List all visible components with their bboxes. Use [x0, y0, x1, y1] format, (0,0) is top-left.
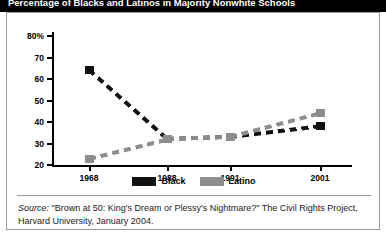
chart-figure: Percentage of Blacks and Latinos in Majo…: [0, 0, 386, 235]
y-axis-tick: [47, 35, 52, 37]
y-axis-tick-label: 30: [4, 139, 44, 149]
legend-swatch-icon: [132, 177, 156, 186]
data-point-latino: [85, 155, 94, 163]
legend-entry: Black: [132, 176, 185, 186]
chart-legend: BlackLatino: [7, 176, 381, 186]
y-axis-line: [52, 32, 54, 167]
data-point-black: [85, 66, 94, 74]
y-axis-tick-label: 80%: [4, 31, 44, 41]
y-axis-tick-label: 20: [4, 160, 44, 170]
chart-title-bar: Percentage of Blacks and Latinos in Majo…: [0, 0, 386, 12]
page-title: Percentage of Blacks and Latinos in Majo…: [8, 0, 295, 8]
legend-entry: Latino: [200, 176, 256, 186]
y-axis-tick-label: 60: [4, 74, 44, 84]
data-point-latino: [163, 135, 172, 143]
legend-label: Black: [161, 176, 185, 186]
chart-panel: 20304050607080% 1968198819912001 BlackLa…: [6, 12, 380, 230]
note-divider: [17, 195, 371, 196]
legend-swatch-icon: [200, 177, 224, 186]
y-axis-tick: [47, 164, 52, 166]
x-axis-tick: [89, 167, 91, 171]
data-point-black: [316, 122, 325, 130]
source-note: Source: "Brown at 50: King's Dream or Pl…: [18, 202, 370, 227]
data-point-latino: [226, 133, 235, 141]
x-axis-tick: [230, 167, 232, 171]
series-line-latino: [167, 135, 230, 141]
y-axis-tick: [47, 143, 52, 145]
y-axis-tick: [47, 57, 52, 59]
y-axis-tick: [47, 78, 52, 80]
source-text: "Brown at 50: King's Dream or Plessy's N…: [18, 203, 358, 226]
y-axis-tick-label: 40: [4, 117, 44, 127]
legend-label: Latino: [229, 176, 256, 186]
x-axis-line: [52, 165, 352, 167]
plot-area: 20304050607080% 1968198819912001: [52, 32, 352, 167]
x-axis-tick: [167, 167, 169, 171]
series-line-latino: [89, 137, 168, 160]
y-axis-tick: [47, 121, 52, 123]
y-axis-tick-label: 50: [4, 96, 44, 106]
data-point-latino: [316, 109, 325, 117]
y-axis-tick: [47, 100, 52, 102]
series-line-black: [88, 69, 169, 141]
source-label: Source:: [18, 203, 49, 213]
x-axis-tick: [320, 167, 322, 171]
y-axis-tick-label: 70: [4, 53, 44, 63]
